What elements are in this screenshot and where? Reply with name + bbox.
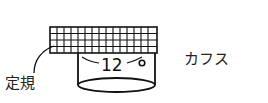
ruler-grid-icon [50, 27, 157, 53]
ruler-label: 定規 [5, 76, 35, 91]
ruler-leader-line [34, 46, 54, 73]
cuff-measurement-diagram: 12 定規 カフス [0, 0, 268, 103]
cuff-label: カフス [184, 52, 229, 67]
measurement-value: 12 [101, 57, 123, 74]
